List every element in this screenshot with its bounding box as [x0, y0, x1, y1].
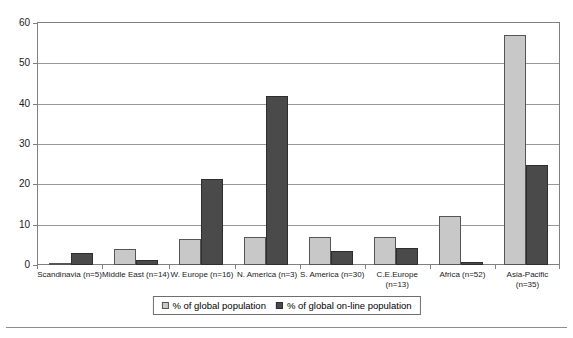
- x-tick-label: Middle East (n=14): [102, 265, 169, 295]
- x-tick-label: Africa (n=52): [430, 265, 495, 295]
- legend-entry[interactable]: % of global on-line population: [276, 300, 412, 311]
- legend-swatch-icon: [161, 302, 168, 309]
- x-tick-label-line: (n=13): [365, 280, 430, 290]
- x-tick-mark: [102, 265, 103, 269]
- bar-series-a[interactable]: [439, 216, 461, 265]
- bar-series-a[interactable]: [244, 237, 266, 265]
- bar-group: [103, 23, 168, 265]
- y-tick-mark: [33, 104, 37, 105]
- x-tick-label: C.E.Europe(n=13): [365, 265, 430, 295]
- x-tick-label: W. Europe (n=16): [169, 265, 234, 295]
- x-tick-mark: [430, 265, 431, 269]
- bar-group: [38, 23, 103, 265]
- bar-series-b[interactable]: [71, 253, 93, 265]
- bottom-divider: [6, 327, 567, 328]
- x-tick-mark: [169, 265, 170, 269]
- chart-legend: % of global population% of global on-lin…: [152, 296, 420, 315]
- bar-series-b[interactable]: [266, 96, 288, 265]
- x-tick-label-line: N. America (n=3): [235, 270, 300, 280]
- x-tick-label: S. America (n=30): [300, 265, 365, 295]
- bar-series-a[interactable]: [374, 237, 396, 265]
- y-tick-mark: [33, 144, 37, 145]
- x-tick-label-line: Scandinavia (n=5): [37, 270, 102, 280]
- bars-layer: [38, 23, 559, 265]
- y-tick-label: 0: [24, 260, 30, 270]
- bar-series-a[interactable]: [114, 249, 136, 265]
- bar-series-a[interactable]: [179, 239, 201, 265]
- bar-series-b[interactable]: [526, 165, 548, 265]
- x-tick-label: Asia-Pacific(n=35): [495, 265, 560, 295]
- x-tick-mark: [300, 265, 301, 269]
- x-tick-label-line: C.E.Europe: [365, 270, 430, 280]
- x-tick-mark: [37, 265, 38, 269]
- y-tick-label: 60: [19, 18, 30, 28]
- legend-label: % of global on-line population: [287, 300, 412, 311]
- x-tick-label-line: S. America (n=30): [300, 270, 365, 280]
- x-tick-label-line: (n=35): [495, 280, 560, 290]
- bar-group: [494, 23, 559, 265]
- y-tick-label: 10: [19, 220, 30, 230]
- x-tick-mark: [235, 265, 236, 269]
- x-tick-label: Scandinavia (n=5): [37, 265, 102, 295]
- x-tick-mark: [495, 265, 496, 269]
- bar-series-a[interactable]: [309, 237, 331, 265]
- bar-group: [364, 23, 429, 265]
- y-tick-mark: [33, 23, 37, 24]
- x-axis: Scandinavia (n=5)Middle East (n=14)W. Eu…: [37, 265, 560, 295]
- y-axis: 0102030405060: [0, 0, 37, 265]
- legend-swatch-icon: [276, 302, 283, 309]
- y-tick-mark: [33, 225, 37, 226]
- x-tick-label-line: Asia-Pacific: [495, 270, 560, 280]
- legend-label: % of global population: [172, 300, 266, 311]
- x-tick-label-line: Africa (n=52): [430, 270, 495, 280]
- bar-series-b[interactable]: [396, 248, 418, 265]
- y-tick-mark: [33, 184, 37, 185]
- legend-entry[interactable]: % of global population: [161, 300, 266, 311]
- chart-figure: 0102030405060 Scandinavia (n=5)Middle Ea…: [0, 0, 573, 338]
- bar-series-b[interactable]: [201, 179, 223, 265]
- bar-group: [429, 23, 494, 265]
- y-tick-label: 40: [19, 99, 30, 109]
- x-tick-mark: [365, 265, 366, 269]
- y-tick-label: 50: [19, 58, 30, 68]
- x-tick-label: N. America (n=3): [235, 265, 300, 295]
- y-tick-mark: [33, 63, 37, 64]
- x-tick-label-line: Middle East (n=14): [102, 270, 169, 280]
- bar-series-b[interactable]: [331, 251, 353, 265]
- bar-group: [168, 23, 233, 265]
- x-tick-label-line: W. Europe (n=16): [169, 270, 234, 280]
- bar-series-a[interactable]: [504, 35, 526, 265]
- x-tick-mark: [559, 265, 560, 269]
- y-tick-label: 30: [19, 139, 30, 149]
- bar-group: [299, 23, 364, 265]
- bar-group: [233, 23, 298, 265]
- y-tick-label: 20: [19, 179, 30, 189]
